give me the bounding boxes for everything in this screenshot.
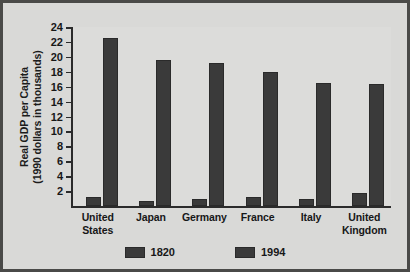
bar-1994-united-states xyxy=(103,38,118,206)
x-category-label-line: States xyxy=(71,224,124,237)
bar-group xyxy=(352,27,384,206)
y-tick-label: 24 xyxy=(51,21,63,33)
bar-group xyxy=(299,27,331,206)
x-category-label-line: United xyxy=(338,211,391,224)
y-tick-mark xyxy=(66,161,72,163)
y-tick-mark xyxy=(66,27,72,29)
y-tick-label: 14 xyxy=(51,96,63,108)
legend-item-1994: 1994 xyxy=(235,246,285,258)
x-category-label-united-kingdom: UnitedKingdom xyxy=(338,211,391,236)
plot-background xyxy=(71,27,391,208)
y-tick-mark xyxy=(66,176,72,178)
bar-group xyxy=(246,27,278,206)
y-tick-label: 4 xyxy=(57,170,63,182)
y-tick-label: 22 xyxy=(51,36,63,48)
y-tick-mark xyxy=(66,72,72,74)
x-category-label-line: France xyxy=(231,211,284,224)
bar-1994-japan xyxy=(156,60,171,206)
bar-1820-united-kingdom xyxy=(352,193,367,206)
x-axis-line xyxy=(71,206,391,208)
y-tick-mark xyxy=(66,42,72,44)
legend-swatch-1994 xyxy=(235,247,255,258)
x-category-label-japan: Japan xyxy=(124,211,177,224)
x-category-label-united-states: UnitedStates xyxy=(71,211,124,236)
x-category-label-france: France xyxy=(231,211,284,224)
y-tick-mark xyxy=(66,117,72,119)
y-tick-label: 20 xyxy=(51,51,63,63)
bar-group xyxy=(192,27,224,206)
plot-area: 24222018161412108642 xyxy=(71,27,391,208)
bar-1994-germany xyxy=(209,63,224,206)
bar-group xyxy=(86,27,118,206)
x-category-label-germany: Germany xyxy=(178,211,231,224)
legend-label-1820: 1820 xyxy=(151,246,175,258)
y-axis-title: Real GDP per Capita (1990 dollars in tho… xyxy=(17,21,51,213)
y-tick-label: 16 xyxy=(51,81,63,93)
bar-1994-united-kingdom xyxy=(369,84,384,206)
y-tick-mark xyxy=(66,87,72,89)
y-tick-label: 6 xyxy=(57,155,63,167)
x-category-label-line: Japan xyxy=(124,211,177,224)
y-tick-label: 12 xyxy=(51,111,63,123)
bar-1820-japan xyxy=(139,201,154,206)
y-tick-mark xyxy=(66,131,72,133)
chart-legend: 18201994 xyxy=(3,246,407,258)
x-category-label-line: Italy xyxy=(284,211,337,224)
bar-1820-united-states xyxy=(86,197,101,206)
y-tick-label: 8 xyxy=(57,140,63,152)
y-tick-mark xyxy=(66,57,72,59)
bar-1820-germany xyxy=(192,199,207,206)
y-tick-label: 18 xyxy=(51,66,63,78)
x-category-label-line: Kingdom xyxy=(338,224,391,237)
x-category-label-italy: Italy xyxy=(284,211,337,224)
y-tick-mark xyxy=(66,102,72,104)
bar-1820-france xyxy=(246,197,261,206)
bar-1994-italy xyxy=(316,83,331,206)
y-tick-label: 2 xyxy=(57,185,63,197)
bar-group xyxy=(139,27,171,206)
y-tick-label: 10 xyxy=(51,125,63,137)
y-tick-mark xyxy=(66,191,72,193)
y-tick-mark xyxy=(66,146,72,148)
x-category-label-line: United xyxy=(71,211,124,224)
x-category-label-line: Germany xyxy=(178,211,231,224)
bar-1820-italy xyxy=(299,199,314,206)
chart-screenshot: Real GDP per Capita (1990 dollars in tho… xyxy=(0,0,410,272)
legend-item-1820: 1820 xyxy=(125,246,175,258)
legend-swatch-1820 xyxy=(125,247,145,258)
bar-1994-france xyxy=(263,72,278,206)
legend-label-1994: 1994 xyxy=(261,246,285,258)
chart-figure: Real GDP per Capita (1990 dollars in tho… xyxy=(3,3,407,269)
